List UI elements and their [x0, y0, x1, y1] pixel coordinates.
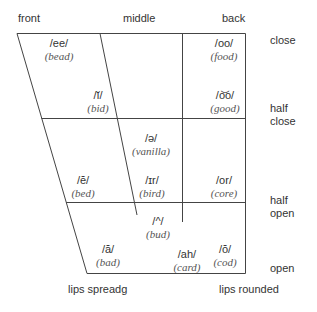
column-label-front: front [18, 12, 40, 25]
vowel-short-i: /ĭ/ (bid) [87, 89, 108, 115]
footer-label-lips-rounded: lips rounded [219, 283, 279, 296]
vowel-symbol: /ɪr/ [139, 174, 164, 187]
vowel-example: (bud) [146, 228, 170, 241]
vowel-ir: /ɪr/ (bird) [139, 174, 164, 200]
vowel-example: (bird) [139, 187, 164, 200]
vowel-example: (core) [211, 187, 237, 200]
vowel-example: (card) [173, 261, 200, 274]
vowel-example: (bed) [71, 187, 94, 200]
middle-divider [100, 34, 137, 216]
footer-label-lips-spread: lips spreadg [68, 283, 127, 296]
vowel-example: (bad) [96, 256, 120, 269]
vowel-ee: /ee/ (bead) [45, 37, 74, 63]
vowel-example: (bead) [45, 50, 74, 63]
row-label-half-close-line2: close [270, 115, 296, 128]
vowel-example: (bid) [87, 102, 108, 115]
column-label-middle: middle [123, 12, 155, 25]
vowel-symbol: /ŏ/ [213, 243, 236, 256]
vowel-short-o: /ŏ/ (cod) [213, 243, 236, 269]
vowel-short-oo: /o͝o/ (good) [210, 89, 239, 115]
row-label-close: close [270, 34, 296, 47]
column-label-back: back [222, 12, 245, 25]
row-label-half-close-line1: half [270, 102, 288, 115]
vowel-symbol: /ə/ [132, 132, 170, 145]
vowel-example: (good) [210, 102, 239, 115]
vowel-or: /or/ (core) [211, 174, 237, 200]
vowel-symbol: /ee/ [45, 37, 74, 50]
vowel-example: (food) [211, 50, 238, 63]
vowel-example: (cod) [213, 256, 236, 269]
vowel-symbol: /ĕ/ [71, 174, 94, 187]
vowel-symbol: /oo/ [211, 37, 238, 50]
row-label-open: open [270, 262, 294, 275]
vowel-schwa: /ə/ (vanilla) [132, 132, 170, 158]
vowel-example: (vanilla) [132, 145, 170, 158]
vowel-ah: /ah/ (card) [173, 248, 200, 274]
vowel-symbol: /^/ [146, 215, 170, 228]
left-border [17, 34, 87, 274]
vowel-symbol: /o͝o/ [210, 89, 239, 102]
row-label-half-open-line2: open [270, 207, 294, 220]
vowel-symbol: /ah/ [173, 248, 200, 261]
vowel-symbol: /ă/ [96, 243, 120, 256]
vowel-oo: /oo/ (food) [211, 37, 238, 63]
vowel-short-e: /ĕ/ (bed) [71, 174, 94, 200]
vowel-symbol: /or/ [211, 174, 237, 187]
vowel-short-a: /ă/ (bad) [96, 243, 120, 269]
vowel-caret: /^/ (bud) [146, 215, 170, 241]
vowel-symbol: /ĭ/ [87, 89, 108, 102]
row-label-half-open-line1: half [270, 194, 288, 207]
